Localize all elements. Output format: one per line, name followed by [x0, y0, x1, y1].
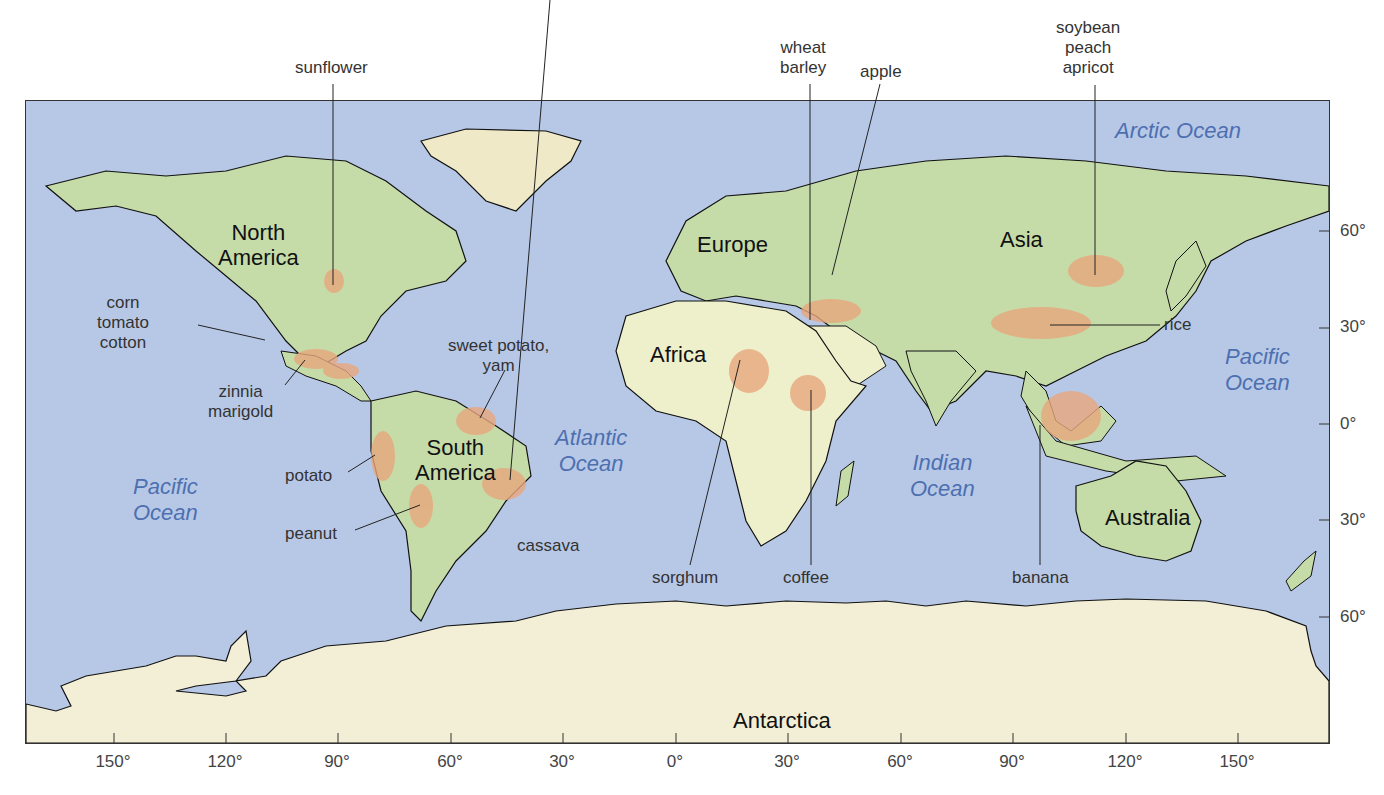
- crop-label-soybean: soybeanpeachapricot: [1056, 18, 1120, 78]
- continent-label-africa: Africa: [650, 342, 706, 367]
- crop-region-sorghum: [729, 349, 769, 393]
- crop-label-rice: rice: [1164, 315, 1191, 335]
- crop-label-sweet-potato: sweet potato,yam: [448, 336, 549, 376]
- crop-region-sweet-potato: [456, 407, 496, 435]
- crop-label-corn: corntomatocotton: [97, 293, 149, 353]
- antarctica-landmass: [26, 599, 1329, 743]
- crop-region-peanut: [409, 484, 433, 528]
- crop-label-coffee: coffee: [783, 568, 829, 588]
- crop-label-wheat: wheatbarley: [780, 38, 826, 78]
- continent-label-australia: Australia: [1105, 505, 1191, 530]
- crop-region-banana: [1041, 391, 1101, 441]
- ocean-label-pacific-west: PacificOcean: [133, 474, 198, 526]
- crop-label-sorghum: sorghum: [652, 568, 718, 588]
- crop-region-wheat: [801, 299, 861, 323]
- latitude-label: 60°: [1340, 221, 1366, 241]
- crop-region-rice: [991, 307, 1091, 339]
- crop-label-apple: apple: [860, 62, 902, 82]
- crop-label-zinnia: zinniamarigold: [208, 382, 273, 422]
- new-zealand-landmass: [1286, 551, 1316, 591]
- latitude-label: 30°: [1340, 510, 1366, 530]
- crop-label-peanut: peanut: [285, 524, 337, 544]
- crop-region-coffee: [790, 375, 826, 411]
- latitude-label: 30°: [1340, 317, 1366, 337]
- longitude-label: 30°: [549, 752, 575, 772]
- continent-label-south-america: SouthAmerica: [415, 435, 496, 485]
- ocean-label-arctic: Arctic Ocean: [1115, 118, 1241, 144]
- latitude-label: 0°: [1340, 414, 1356, 434]
- crop-region-soybean: [1068, 255, 1124, 287]
- longitude-label: 90°: [324, 752, 350, 772]
- crop-label-potato: potato: [285, 466, 332, 486]
- map-graphic: [26, 101, 1329, 743]
- crop-region-potato: [371, 431, 395, 481]
- continent-label-north-america: NorthAmerica: [218, 220, 299, 270]
- continent-label-europe: Europe: [697, 232, 768, 257]
- longitude-label: 150°: [95, 752, 130, 772]
- longitude-label: 120°: [1107, 752, 1142, 772]
- longitude-label: 150°: [1219, 752, 1254, 772]
- ocean-label-indian: IndianOcean: [910, 450, 975, 502]
- crop-label-sunflower: sunflower: [295, 58, 368, 78]
- greenland-landmass: [421, 129, 581, 211]
- world-map: [25, 100, 1330, 744]
- longitude-label: 120°: [207, 752, 242, 772]
- longitude-label: 60°: [437, 752, 463, 772]
- longitude-label: 60°: [887, 752, 913, 772]
- longitude-label: 90°: [999, 752, 1025, 772]
- latitude-label: 60°: [1340, 607, 1366, 627]
- latitude-tick-marks: [1319, 231, 1329, 617]
- crop-region-central-america: [323, 363, 359, 379]
- crop-region-sunflower: [324, 269, 344, 293]
- continent-label-antarctica: Antarctica: [733, 708, 831, 733]
- longitude-label: 0°: [667, 752, 683, 772]
- longitude-label: 30°: [774, 752, 800, 772]
- continent-label-asia: Asia: [1000, 227, 1043, 252]
- crop-label-cassava: cassava: [517, 536, 579, 556]
- ocean-label-pacific-east: PacificOcean: [1225, 344, 1290, 396]
- south-america-landmass: [371, 391, 531, 621]
- madagascar-landmass: [836, 461, 854, 506]
- ocean-label-atlantic: AtlanticOcean: [555, 425, 627, 477]
- crop-label-banana: banana: [1012, 568, 1069, 588]
